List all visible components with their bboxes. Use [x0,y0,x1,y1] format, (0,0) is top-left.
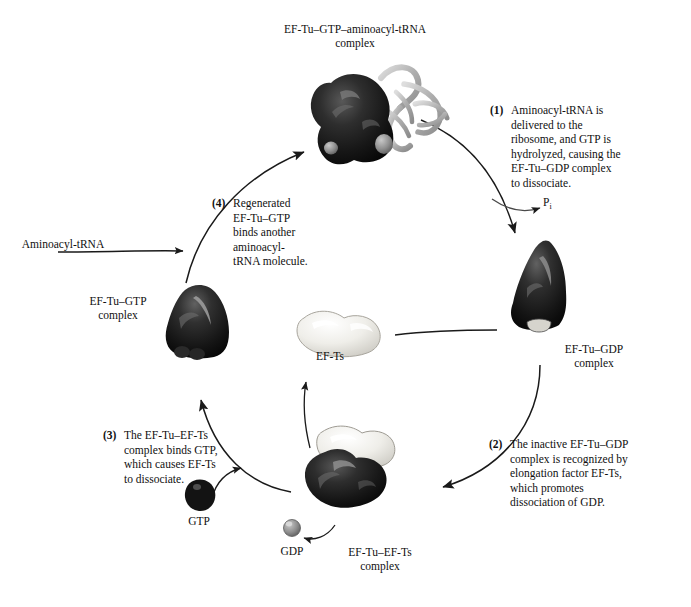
ef-tu-ef-ts-complex-label: EF-Tu–EF-Ts complex [327,545,433,573]
ef-tu-ef-ts-complex-molecule [305,426,395,508]
step-4: (4) Regenerated EF-Tu–GTP binds another … [212,196,342,269]
step-2-number: (2) [489,437,502,452]
step-3: (3) The EF-Tu–EF-Ts complex binds GTP, w… [103,428,263,486]
phosphate-subscript: i [549,202,551,211]
gdp-label: GDP [271,545,313,558]
aminoacyl-trna-label: Aminoacyl-tRNA [4,238,122,251]
pi-release-arrow [492,199,540,211]
gdp-release-arrow [304,525,335,539]
step-4-number: (4) [212,196,225,211]
step-1-text: Aminoacyl-tRNA is delivered to the ribos… [490,103,670,190]
ef-tu-gtp-molecule [166,285,229,360]
step-2-text: The inactive EF-Tu–GDP complex is recogn… [489,437,679,510]
ef-tu-gtp-aminoacyl-trna-molecule [311,67,447,164]
gdp-molecule [284,520,301,537]
ef-tu-gtp-complex-label: EF-Tu–GTP complex [68,294,168,322]
step-1-number: (1) [490,103,503,118]
gtp-label: GTP [178,515,220,528]
ef-tu-gdp-complex-label: EF-Tu–GDP complex [544,342,644,370]
diagram-canvas: EF-Tu–GTP–aminoacyl-tRNA complex (1) Ami… [0,0,691,607]
ef-tu-gdp-molecule [511,241,566,332]
ef-tu-gtp-aminoacyl-trna-complex-label: EF-Tu–GTP–aminoacyl-tRNA complex [255,22,455,50]
phosphate-label: Pi [543,196,573,213]
ef-ts-label: EF-Ts [300,350,360,363]
step-1: (1) Aminoacyl-tRNA is delivered to the r… [490,103,670,190]
step-3-text: The EF-Tu–EF-Ts complex binds GTP, which… [103,428,263,486]
step-3-number: (3) [103,428,116,443]
ef-ts-binding-arrow [395,330,497,335]
step-4-text: Regenerated EF-Tu–GTP binds another amin… [212,196,342,269]
ef-ts-dissociation-arrow [304,382,310,448]
step-2: (2) The inactive EF-Tu–GDP complex is re… [489,437,679,510]
